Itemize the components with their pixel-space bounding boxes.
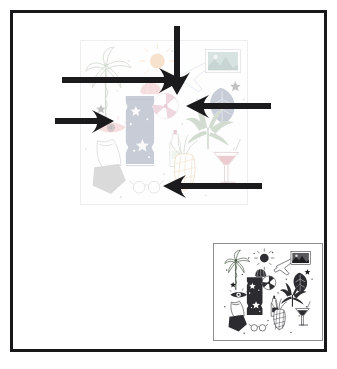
main-artwork-image (81, 41, 247, 204)
thumbnail-artwork-panel[interactable] (213, 243, 323, 341)
main-artwork-panel[interactable] (80, 40, 248, 205)
thumbnail-artwork-image (217, 247, 319, 337)
screenshot-canvas (0, 0, 337, 369)
